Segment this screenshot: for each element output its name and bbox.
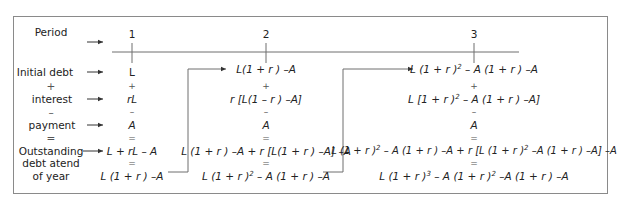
period-1: 1: [129, 28, 136, 40]
col1-initial-debt: L: [129, 66, 135, 78]
period-3: 3: [471, 28, 478, 40]
col3-outstanding-simplified: L (1 + r )3 – A (1 + r )2 –A (1 + r ) –A: [379, 170, 568, 182]
col1-equals2: =: [128, 157, 136, 169]
col2-plus: +: [262, 80, 270, 92]
col1-plus: +: [128, 80, 136, 92]
label-of-year: of year: [33, 170, 70, 182]
label-period: Period: [35, 26, 68, 38]
label-plus: +: [47, 80, 56, 92]
col3-equals2: =: [470, 157, 478, 169]
col1-minus: –: [130, 106, 135, 118]
label-initial-debt: Initial debt: [17, 66, 73, 78]
col3-payment: A: [470, 119, 477, 131]
col3-plus: +: [470, 80, 478, 92]
col3-minus: –: [472, 106, 477, 118]
label-interest: interest: [32, 93, 72, 105]
col3-equals: =: [470, 132, 478, 144]
col2-equals2: =: [262, 157, 270, 169]
col2-interest: r [L(1 – r ) –A]: [230, 93, 302, 105]
col2-initial-debt: L(1 + r ) –A: [236, 63, 296, 75]
label-equals: =: [47, 132, 56, 144]
label-outstanding: Outstanding: [19, 145, 84, 157]
label-payment: payment: [29, 119, 76, 131]
col1-equals: =: [128, 132, 136, 144]
label-debt-at-end: debt atend: [22, 157, 80, 169]
col1-outstanding-simplified: L (1 + r ) –A: [101, 170, 164, 182]
col1-outstanding-expanded: L + rL – A: [107, 145, 158, 157]
col2-outstanding-simplified: L (1 + r )2 – A (1 + r ) –A: [202, 170, 330, 182]
period-2: 2: [263, 28, 270, 40]
label-minus: –: [48, 106, 53, 118]
col2-payment: A: [262, 119, 269, 131]
col1-payment: A: [128, 119, 135, 131]
col2-equals: =: [262, 132, 270, 144]
col2-minus: –: [264, 106, 269, 118]
col3-outstanding-expanded: L (1 + r )2 – A (1 + r ) –A + r [L (1 + …: [331, 145, 617, 157]
col1-interest: rL: [127, 93, 137, 105]
col2-outstanding-expanded: L (1 + r ) –A + r [L(1 + r ) –A] –A: [181, 145, 351, 157]
col3-initial-debt: L (1 + r )2 – A (1 + r ) –A: [410, 63, 538, 75]
col3-interest: L [1 + r )2 – A (1 + r ) –A]: [408, 93, 540, 105]
